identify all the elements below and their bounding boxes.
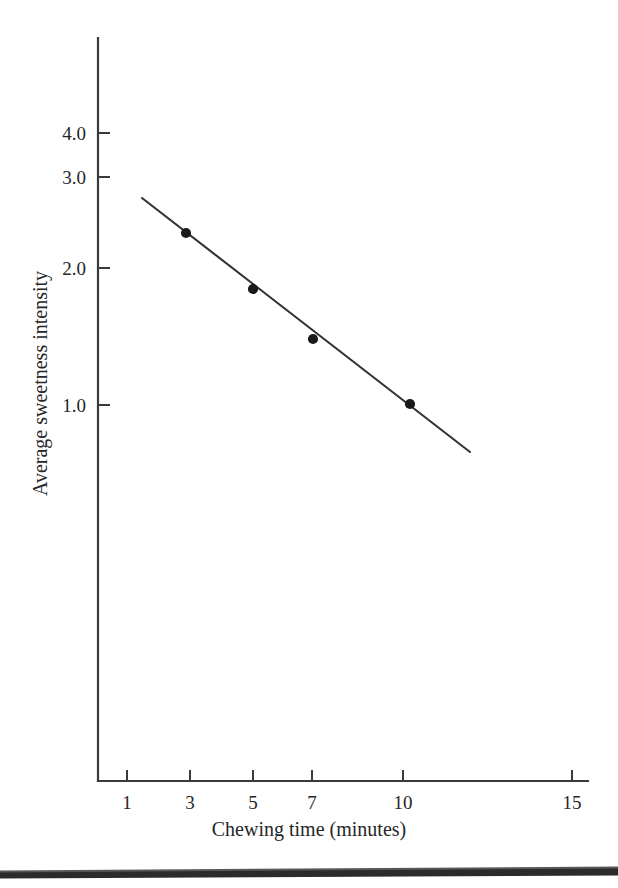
page-edge-band xyxy=(0,866,618,880)
x-tick-label-5: 5 xyxy=(223,793,283,812)
x-tick-label-1: 1 xyxy=(97,793,157,812)
y-axis-ticks xyxy=(98,133,110,405)
data-point xyxy=(248,284,258,294)
x-tick-label-3: 3 xyxy=(160,793,220,812)
y-tick-label-4: 4.0 xyxy=(26,124,86,143)
figure-container: 4.0 3.0 2.0 1.0 1 3 5 7 10 15 Chewing ti… xyxy=(0,0,618,888)
data-point xyxy=(405,399,415,409)
data-point xyxy=(308,334,318,344)
x-axis-ticks xyxy=(127,770,572,781)
data-point xyxy=(181,228,191,238)
x-tick-label-7: 7 xyxy=(282,793,342,812)
chart-plot-area xyxy=(0,0,618,888)
y-axis-title: Average sweetness intensity xyxy=(29,184,52,584)
x-axis-title: Chewing time (minutes) xyxy=(0,818,618,841)
x-tick-label-15: 15 xyxy=(542,793,602,812)
fitted-trend-line xyxy=(142,198,470,452)
x-tick-label-10: 10 xyxy=(373,793,433,812)
